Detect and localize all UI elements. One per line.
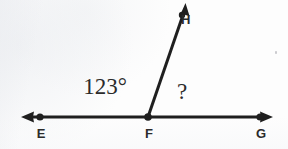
- point-label-E: E: [29, 127, 53, 140]
- scan-speck: [275, 51, 277, 54]
- angle-label-EFH: 123°: [65, 75, 145, 98]
- point-label-F: F: [137, 127, 161, 140]
- point-dot-G: [256, 113, 263, 120]
- geometry-figure: E F G H 123° ?: [0, 0, 288, 149]
- point-label-G: G: [249, 127, 273, 140]
- point-dot-E: [36, 113, 43, 120]
- point-label-H: H: [181, 13, 203, 26]
- arrowhead-left-E: [21, 112, 34, 123]
- point-dot-F: [144, 113, 152, 121]
- angle-label-HFG: ?: [167, 80, 197, 103]
